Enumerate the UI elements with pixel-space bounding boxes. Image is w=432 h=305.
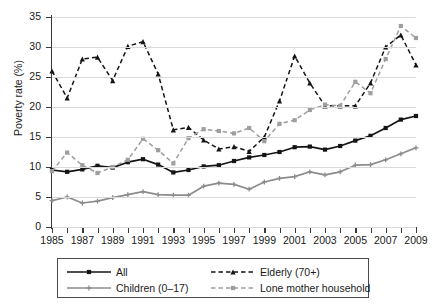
plot-area (52, 17, 416, 227)
x-tick-mark (189, 228, 190, 233)
x-tick-mark (234, 228, 235, 233)
gridline (52, 227, 416, 228)
x-tick-mark (355, 228, 356, 233)
x-tick-mark (82, 228, 83, 233)
gridline (52, 167, 416, 168)
x-tick-mark (295, 228, 296, 233)
y-tick-label: 35 (1, 11, 41, 22)
gridline (52, 77, 416, 78)
x-tick-mark (416, 228, 417, 233)
x-tick-mark (158, 228, 159, 233)
x-tick-mark (113, 228, 114, 233)
legend-entry-children: Children (0–17) (66, 280, 188, 296)
gridline (52, 107, 416, 108)
x-tick-mark (280, 228, 281, 233)
x-tick-mark (249, 228, 250, 233)
gridline (52, 197, 416, 198)
x-tick-mark (173, 228, 174, 233)
legend-label-lone-mother: Lone mother household (260, 282, 370, 294)
x-tick-mark (98, 228, 99, 233)
x-tick-mark (67, 228, 68, 233)
y-tick-label: 15 (1, 131, 41, 142)
x-tick-mark (310, 228, 311, 233)
legend-swatch-elderly (210, 266, 256, 278)
x-tick-mark (401, 228, 402, 233)
y-tick-label: 0 (1, 221, 41, 232)
x-tick-mark (219, 228, 220, 233)
x-tick-label: 2009 (396, 235, 432, 246)
gridline (52, 47, 416, 48)
y-tick-label: 5 (1, 191, 41, 202)
x-tick-mark (386, 228, 387, 233)
x-tick-mark (340, 228, 341, 233)
x-tick-mark (52, 228, 53, 233)
y-tick-label: 25 (1, 71, 41, 82)
y-tick-label: 10 (1, 161, 41, 172)
chart-legend: All Elderly (70+) Children (0–17) Lone m… (57, 258, 369, 298)
gridline (52, 137, 416, 138)
x-tick-mark (325, 228, 326, 233)
legend-entry-elderly: Elderly (70+) (210, 264, 320, 280)
x-tick-mark (264, 228, 265, 233)
x-tick-mark (128, 228, 129, 233)
legend-swatch-all (66, 266, 112, 278)
x-tick-mark (204, 228, 205, 233)
legend-label-children: Children (0–17) (116, 282, 188, 294)
x-tick-mark (143, 228, 144, 233)
y-tick-label: 30 (1, 41, 41, 52)
legend-entry-lone-mother: Lone mother household (210, 280, 370, 296)
legend-swatch-children (66, 282, 112, 294)
data-series-layer (52, 17, 416, 227)
legend-label-all: All (116, 266, 128, 278)
legend-label-elderly: Elderly (70+) (260, 266, 320, 278)
legend-entry-all: All (66, 264, 128, 280)
y-tick-label: 20 (1, 101, 41, 112)
series-elderly-70 (49, 32, 418, 154)
gridline (52, 17, 416, 18)
x-tick-mark (371, 228, 372, 233)
legend-swatch-lone-mother (210, 282, 256, 294)
